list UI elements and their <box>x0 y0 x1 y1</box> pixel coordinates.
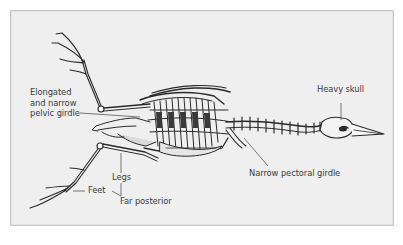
label-pelvic-line-2: and narrow <box>30 98 100 109</box>
bird-skeleton-illustration <box>0 0 403 245</box>
label-pelvic-line-3: pelvic girdle <box>30 108 100 119</box>
label-legs: Legs <box>112 172 131 183</box>
ribcage <box>140 93 232 157</box>
pectoral-leader <box>244 138 268 166</box>
skull <box>320 117 384 138</box>
label-feet: Feet <box>88 185 106 196</box>
diagram-page: Elongated and narrow pelvic girdle Heavy… <box>0 0 403 245</box>
label-pelvic-line-1: Elongated <box>30 87 100 98</box>
label-pectoral-girdle: Narrow pectoral girdle <box>249 168 340 179</box>
label-far-posterior: Far posterior <box>120 196 172 207</box>
neck-vertebrae <box>226 117 328 135</box>
label-pelvic-girdle: Elongated and narrow pelvic girdle <box>30 87 100 119</box>
pectoral-girdle <box>226 128 246 148</box>
pelvic-girdle <box>92 118 156 146</box>
label-heavy-skull: Heavy skull <box>317 84 364 95</box>
legs-leader-lower <box>112 183 121 196</box>
